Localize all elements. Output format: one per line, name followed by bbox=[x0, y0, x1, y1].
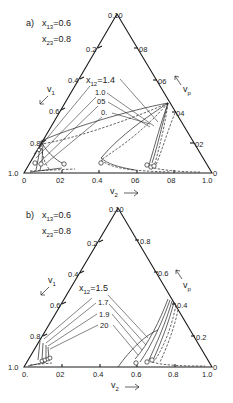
left-tick: 0.4 bbox=[68, 270, 78, 279]
bottom-tick: 1.0 bbox=[202, 176, 212, 185]
arrow-vp-icon bbox=[176, 270, 182, 279]
plait-points bbox=[40, 356, 154, 365]
data-point bbox=[39, 162, 43, 166]
data-point bbox=[48, 356, 52, 360]
axis-label-vp: vp bbox=[183, 84, 192, 96]
arrow-v1-icon bbox=[41, 287, 49, 295]
series-value: 1.0 bbox=[95, 88, 105, 97]
series-label: x12=1.4 bbox=[86, 75, 115, 87]
series-value: 05 bbox=[97, 97, 105, 106]
param-x23: x23=0.8 bbox=[42, 34, 71, 46]
left-corner-label: 1.0 bbox=[8, 363, 18, 372]
right-corner-label: 0 bbox=[213, 363, 217, 372]
left-tick: 0.4 bbox=[68, 76, 78, 85]
right-tick: 0.4 bbox=[177, 301, 187, 310]
right-corner-label: 0 bbox=[213, 169, 217, 178]
axis-label-v2: v2 bbox=[110, 186, 119, 198]
panel-a: a) x13=0.6 x23=0.8 0.10 0.2 0.4 0.6 0.8 … bbox=[8, 11, 217, 198]
left-tick: 0.8 bbox=[30, 139, 40, 148]
bottom-tick: 02 bbox=[56, 370, 64, 379]
right-tick: 0.8 bbox=[140, 237, 150, 246]
bottom-tick: 0.6 bbox=[131, 370, 141, 379]
axis-label-v1: v1 bbox=[48, 275, 57, 287]
series-value: 0. bbox=[101, 108, 107, 117]
data-point bbox=[152, 164, 156, 168]
right-tick: 06 bbox=[158, 77, 166, 86]
bottom-tick: 0. bbox=[22, 370, 28, 379]
top-vertex-label: 0.10 bbox=[109, 205, 124, 214]
data-point bbox=[33, 161, 37, 165]
data-point bbox=[150, 358, 154, 362]
data-point bbox=[37, 148, 41, 152]
data-point bbox=[62, 162, 66, 166]
left-tick: 0.6 bbox=[49, 107, 59, 116]
bottom-tick: 0.8 bbox=[168, 370, 178, 379]
bottom-tick: 06 bbox=[131, 176, 139, 185]
left-tick: 0.2 bbox=[86, 45, 96, 54]
left-tick: 0.2 bbox=[87, 239, 97, 248]
right-tick: 02 bbox=[195, 140, 203, 149]
param-x13: x13=0.6 bbox=[42, 18, 71, 30]
ternary-figure: a) x13=0.6 x23=0.8 0.10 0.2 0.4 0.6 0.8 … bbox=[0, 0, 233, 403]
data-point bbox=[99, 161, 103, 165]
panel-b: b) x13=0.6 x23=0.8 0.10 0.2 0.4 0.6 0.8 … bbox=[8, 205, 217, 392]
bottom-tick: 02 bbox=[56, 176, 64, 185]
bottom-tick: 0.4 bbox=[93, 370, 103, 379]
bottom-tick: 1.0 bbox=[202, 370, 212, 379]
series-value: 1.7 bbox=[98, 298, 108, 307]
axis-label-v2: v2 bbox=[111, 380, 120, 392]
left-corner-label: 1.0 bbox=[8, 169, 18, 178]
data-point bbox=[134, 361, 138, 365]
param-x13: x13=0.6 bbox=[42, 210, 71, 222]
series-label: x12=1.5 bbox=[79, 283, 108, 295]
bottom-tick: 0 bbox=[22, 176, 26, 185]
right-tick: 08 bbox=[139, 45, 147, 54]
series-value: 20 bbox=[100, 321, 108, 330]
panel-label: a) bbox=[26, 18, 34, 28]
right-tick: 0.2 bbox=[196, 333, 206, 342]
param-x23: x23=0.8 bbox=[42, 226, 71, 238]
series-value: 1.9 bbox=[99, 310, 109, 319]
top-vertex-label: 0.10 bbox=[108, 11, 123, 20]
right-tick: 04 bbox=[176, 109, 184, 118]
tick-mark bbox=[99, 240, 103, 242]
left-tick: 0.6 bbox=[50, 301, 60, 310]
axis-label-v1: v1 bbox=[47, 84, 56, 96]
axis-label-vp: vp bbox=[183, 280, 192, 292]
left-tick: 0.8 bbox=[30, 332, 40, 341]
panel-label: b) bbox=[26, 210, 34, 220]
bottom-tick: 08 bbox=[167, 176, 175, 185]
arrow-vp-icon bbox=[175, 76, 181, 85]
bottom-tick: 0.4 bbox=[92, 176, 102, 185]
data-point bbox=[145, 360, 149, 364]
arrow-v1-icon bbox=[40, 96, 48, 104]
right-tick: 0.6 bbox=[158, 269, 168, 278]
